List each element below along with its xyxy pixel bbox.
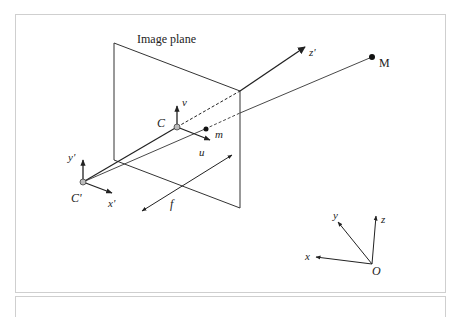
ray-cprime-to-c	[83, 127, 177, 182]
world-z-axis	[372, 216, 376, 264]
projection-ray-solid	[240, 57, 372, 113]
world-point-M	[369, 54, 375, 60]
projection-ray-dashed	[205, 113, 240, 129]
ray-cprime-to-m	[83, 129, 205, 182]
image-plane-label: Image plane	[137, 32, 196, 46]
world-point-label: M	[379, 56, 390, 70]
focal-length-arrow	[142, 155, 232, 211]
image-point-m	[204, 127, 209, 132]
principal-point-label: C	[157, 116, 166, 130]
z-prime-label: z'	[308, 46, 316, 58]
x-prime-label: x'	[107, 197, 116, 209]
camera-center-label: C'	[71, 191, 82, 205]
world-x-axis	[316, 257, 372, 264]
principal-point-C	[174, 124, 180, 130]
world-origin-label: O	[372, 264, 381, 278]
focal-length-label: f	[170, 197, 175, 211]
world-z-label: z	[380, 213, 386, 225]
camera-center-Cprime	[80, 179, 86, 185]
u-label: u	[199, 146, 205, 158]
x-prime-axis	[83, 182, 112, 193]
world-y-axis	[338, 222, 372, 264]
world-y-label: y	[332, 209, 338, 221]
world-x-label: x	[304, 250, 310, 262]
optical-axis-solid	[240, 47, 305, 91]
v-label: v	[182, 96, 187, 108]
y-prime-label: y'	[67, 151, 76, 163]
image-point-label: m	[215, 128, 223, 140]
